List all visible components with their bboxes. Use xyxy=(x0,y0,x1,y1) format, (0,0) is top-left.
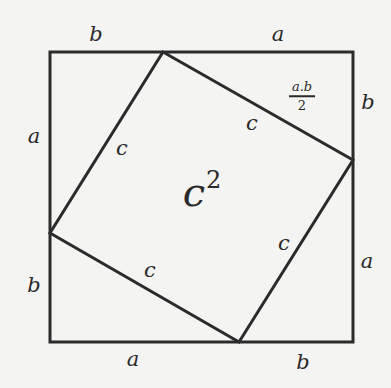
label-center-c-squared: c2 xyxy=(183,168,222,212)
label-hyp-top-right-c: c xyxy=(246,113,258,134)
label-left-top-a: a xyxy=(28,126,41,147)
label-triangle-area: a.b 2 xyxy=(289,80,315,112)
label-bottom-left-a: a xyxy=(127,349,140,370)
label-top-right-a: a xyxy=(272,24,285,45)
label-hyp-bottom-left-c: c xyxy=(144,260,156,281)
label-top-left-b: b xyxy=(89,24,102,45)
fraction-numerator: a.b xyxy=(290,80,314,95)
label-hyp-top-left-c: c xyxy=(116,138,128,159)
center-base: c xyxy=(183,169,205,215)
pythagoras-diagram: b a b a b a b a c c c c c2 a.b 2 xyxy=(0,0,391,388)
label-hyp-bottom-right-c: c xyxy=(278,233,290,254)
fraction-denominator: 2 xyxy=(298,97,306,112)
label-left-bottom-b: b xyxy=(27,275,40,296)
label-bottom-right-b: b xyxy=(296,352,309,373)
center-exponent: 2 xyxy=(206,166,221,194)
label-right-bottom-a: a xyxy=(361,251,374,272)
label-right-top-b: b xyxy=(361,92,374,113)
